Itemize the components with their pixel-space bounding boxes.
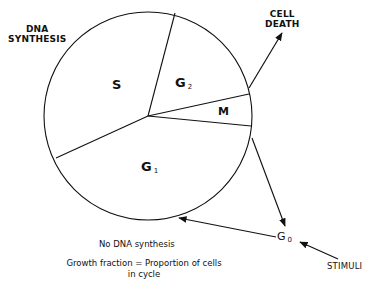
spoke-g2-m: [148, 94, 249, 116]
phase-g0-label: G0: [277, 231, 292, 244]
phase-g2-letter: G: [175, 75, 186, 90]
phase-g1-label: G1: [141, 160, 158, 175]
dna-synthesis-label: DNA SYNTHESIS: [8, 25, 66, 44]
phase-m-letter: M: [218, 105, 229, 118]
dna-synthesis-line2: SYNTHESIS: [8, 35, 66, 44]
dna-synthesis-line1: DNA: [8, 25, 66, 34]
spoke-g1-s: [56, 116, 148, 158]
stimuli-text: STIMULI: [327, 261, 362, 271]
phase-g0-subscript: 0: [288, 236, 292, 244]
cell-death-line2: DEATH: [265, 20, 300, 29]
phase-g1-letter: G: [141, 159, 152, 174]
growth-fraction-line1: Growth fraction = Proportion of cells: [64, 259, 224, 268]
spoke-s-g2: [148, 13, 175, 116]
arrow-to-cell-death: [249, 33, 282, 88]
arrow-to-g0: [252, 138, 285, 226]
spoke-m-g1: [148, 116, 251, 126]
growth-fraction-line2: in cycle: [64, 270, 224, 279]
no-dna-synthesis-text: No DNA synthesis: [99, 239, 175, 249]
phase-g2-subscript: 2: [188, 83, 192, 91]
no-dna-synthesis-label: No DNA synthesis: [99, 240, 175, 249]
growth-fraction-label: Growth fraction = Proportion of cells in…: [64, 259, 224, 278]
cell-death-label: CELL DEATH: [265, 10, 300, 29]
phase-s-letter: S: [112, 77, 121, 92]
arrow-stimuli-to-g0: [300, 242, 338, 259]
phase-g1-subscript: 1: [154, 167, 158, 175]
phase-g2-label: G2: [175, 76, 192, 91]
cell-death-line1: CELL: [265, 10, 300, 19]
phase-m-label: M: [218, 106, 229, 117]
stimuli-label: STIMULI: [327, 262, 362, 271]
arrow-g0-to-g1: [179, 218, 276, 237]
phase-g0-letter: G: [277, 230, 286, 243]
phase-s-label: S: [112, 78, 121, 91]
